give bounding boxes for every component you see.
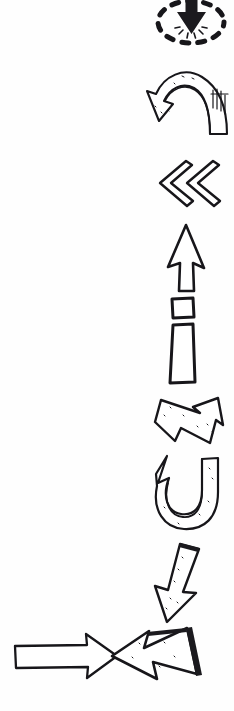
sketch-arrow-down-tilted: Tilted downward arrow [142,540,218,626]
left-arrow-icon [112,627,202,679]
sketch-arrow-up: Upward arrow [160,220,214,294]
sketch-u-turn-arrow: U-turn arrow [152,452,226,532]
tapered-bar-icon [170,324,195,383]
square-dot-icon [172,298,194,318]
sketch-exclamation-bar: Exclamation bar [160,294,210,388]
diagonal-arrow-icon [155,398,223,443]
down-arrow-icon [177,0,206,34]
u-turn-arrow-icon [156,456,218,529]
right-arrow-icon [15,634,117,678]
curved-arrow-icon [147,72,228,134]
up-arrow-icon [168,225,204,291]
sketch-sheet: Hand-drawn Arrow Sketches Arrow entering… [0,0,234,711]
sketch-opposing-arrows-collision: Opposing arrows meeting [14,626,230,704]
sketch-arrow-into-dashed-oval: Arrow entering dashed oval [152,0,230,54]
sketch-curved-arcing-arrow: Curved arcing arrow [144,64,230,140]
down-arrow-icon [155,543,199,622]
sketch-arrow-diagonal-down-right: Diagonal arrow down-right [150,394,230,450]
sketch-double-chevron-left: Double chevron left [156,158,226,210]
